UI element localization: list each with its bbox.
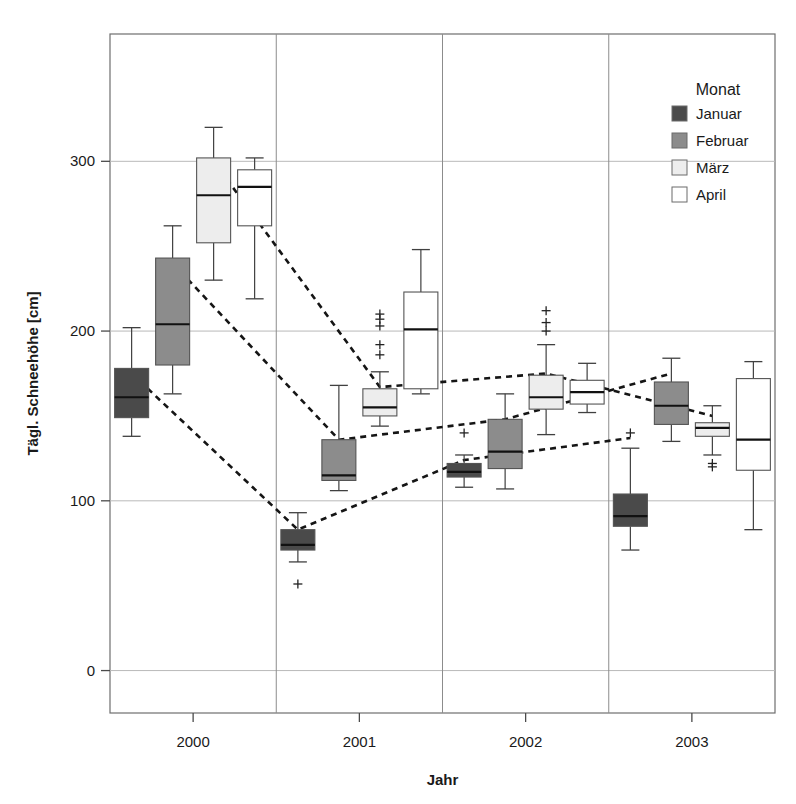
boxplot-chart: 01002003002000200120022003JahrTägl. Schn… [0,0,796,804]
box-body [613,494,647,526]
legend-label-februar: Februar [696,132,749,149]
legend-swatch-januar [672,106,687,121]
legend-swatch-märz [672,160,687,175]
box-body [156,258,190,365]
box-body [197,158,231,243]
y-tick-label-0: 0 [87,662,95,679]
box-body [281,530,315,550]
legend-label-januar: Januar [696,105,742,122]
y-tick-label-200: 200 [70,322,95,339]
box-body [529,375,563,409]
legend-swatch-februar [672,133,687,148]
x-axis-title: Jahr [427,771,459,788]
box-body [488,419,522,468]
y-tick-label-300: 300 [70,152,95,169]
box-body [238,170,272,226]
y-axis-title: Tägl. Schneehöhe [cm] [24,291,41,455]
legend-title: Monat [696,81,741,98]
box-body [736,379,770,471]
x-tick-label-2002: 2002 [509,733,542,750]
box-body [695,423,729,437]
legend-label-april: April [696,186,726,203]
x-tick-label-2003: 2003 [675,733,708,750]
box-body [115,368,149,417]
x-tick-label-2001: 2001 [343,733,376,750]
x-tick-label-2000: 2000 [176,733,209,750]
legend-label-märz: März [696,159,729,176]
legend-swatch-april [672,187,687,202]
box-body [404,292,438,389]
box-body [363,389,397,416]
chart-page: 01002003002000200120022003JahrTägl. Schn… [0,0,796,804]
box-body [447,463,481,477]
box-body [654,382,688,424]
y-tick-label-100: 100 [70,492,95,509]
